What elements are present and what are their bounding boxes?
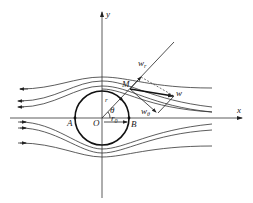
point-a-label: A [66, 118, 73, 128]
point-m-label: M [121, 79, 130, 89]
point-a-dot [74, 117, 77, 120]
resultant-velocity-label: w [176, 88, 182, 98]
streamline-lower-1 [20, 122, 212, 149]
streamline-lower-3 [20, 143, 212, 157]
tangential-velocity-label: wθ [141, 106, 150, 117]
radial-r-label: r [105, 96, 108, 104]
radial-velocity-label: wr [138, 58, 147, 69]
streamline-upper-3 [20, 86, 212, 112]
theta-label: θ [110, 105, 115, 115]
point-b-label: B [131, 119, 137, 129]
x-axis-label: x [236, 105, 241, 115]
cylinder-flow-diagram: x y A B O r0 r θ M wr w wθ [0, 0, 253, 203]
y-axis-label: y [105, 9, 110, 19]
radial-velocity-vector [130, 77, 141, 89]
streamline-upper-1 [20, 77, 212, 89]
point-b-dot [128, 117, 131, 120]
origin-label: O [93, 118, 100, 128]
lower-streamlines [18, 122, 212, 157]
